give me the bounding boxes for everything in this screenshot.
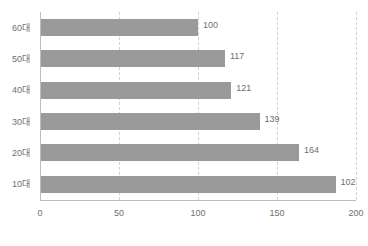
bar-row: 102 — [40, 169, 356, 200]
x-axis-tick-label: 200 — [348, 208, 363, 219]
y-axis-tick-label: 10대 — [12, 179, 30, 190]
bar[interactable] — [40, 50, 225, 67]
bar-row: 117 — [40, 43, 356, 74]
bar[interactable] — [40, 19, 198, 36]
y-axis-tick-label: 50대 — [12, 54, 30, 65]
plot-area: 100 117 121 139 164 102 — [40, 12, 356, 200]
bar[interactable] — [40, 176, 336, 193]
y-axis-tick-label: 30대 — [12, 117, 30, 128]
bar-chart: 100 117 121 139 164 102 — [0, 0, 368, 246]
bar-value-label: 100 — [203, 20, 218, 31]
x-axis-line — [40, 200, 356, 201]
bar[interactable] — [40, 144, 299, 161]
bar-series: 100 117 121 139 164 102 — [40, 12, 356, 200]
y-axis-tick-label: 40대 — [12, 85, 30, 96]
y-axis-tick-labels: 60대 50대 40대 30대 20대 10대 — [0, 12, 36, 200]
bar-value-label: 117 — [230, 51, 244, 62]
bar-row: 139 — [40, 106, 356, 137]
bar-value-label: 102 — [341, 177, 356, 188]
bar[interactable] — [40, 113, 260, 130]
bar[interactable] — [40, 82, 231, 99]
x-axis-tick-label: 100 — [190, 208, 205, 219]
gridline-200 — [356, 12, 357, 200]
x-axis-tick-labels: 0 50 100 150 200 — [0, 208, 368, 228]
y-axis-line — [40, 12, 41, 200]
bar-row: 121 — [40, 75, 356, 106]
bar-value-label: 164 — [304, 145, 319, 156]
bar-value-label: 121 — [236, 83, 251, 94]
bar-row: 164 — [40, 137, 356, 168]
y-axis-tick-label: 60대 — [12, 23, 30, 34]
bar-row: 100 — [40, 12, 356, 43]
x-axis-tick-label: 50 — [114, 208, 124, 219]
y-axis-tick-label: 20대 — [12, 148, 30, 159]
x-axis-tick-label: 0 — [37, 208, 42, 219]
x-axis-tick-label: 150 — [269, 208, 284, 219]
bar-value-label: 139 — [265, 114, 280, 125]
